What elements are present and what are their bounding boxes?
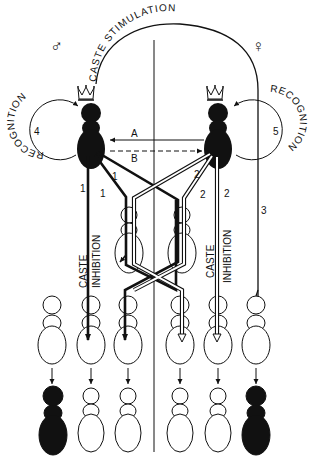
- outcome-male-reproductive: [39, 386, 67, 455]
- queen-crown-icon: [206, 85, 224, 100]
- pathway-number-2a: 2: [194, 169, 200, 180]
- arrow-a-label: A: [131, 128, 138, 139]
- right-loop-number: 5: [273, 126, 279, 137]
- nymph-3: [114, 296, 142, 364]
- caste-stimulation-label: CASTE STIMULATION: [87, 2, 177, 82]
- king-crown-icon: [77, 85, 95, 100]
- termite-caste-regulation-diagram: ♂ ♀ CASTE STIMULATION RECOGNITION 4 RECO…: [0, 0, 313, 469]
- left-inhibition-word: INHIBITION: [91, 235, 102, 288]
- pathway-number-1a: 1: [80, 183, 86, 194]
- male-symbol: ♂: [50, 37, 63, 56]
- right-inhibition-word: INHIBITION: [222, 230, 233, 283]
- outcome-nymph-2: [78, 388, 104, 452]
- outcome-female-reproductive: [242, 386, 270, 455]
- nymph-6: [242, 296, 270, 364]
- pathway-number-1c: 1: [112, 171, 118, 182]
- outcome-nymph-3: [115, 388, 141, 452]
- outcome-nymph-4: [167, 388, 193, 452]
- pathway-number-3: 3: [261, 205, 267, 216]
- female-symbol: ♀: [252, 37, 265, 56]
- arrow-b-label: B: [131, 153, 138, 164]
- left-loop-number: 4: [34, 126, 40, 137]
- pathway-number-2b: 2: [200, 189, 206, 200]
- pathway-number-2c: 2: [224, 188, 230, 199]
- nymph-2: [77, 296, 105, 364]
- right-recognition-label: RECOGNITION: [270, 83, 309, 154]
- nymph-1: [38, 296, 66, 364]
- king-reproductive: [77, 103, 105, 169]
- left-inhibition-caste: CASTE: [78, 254, 89, 288]
- outcome-nymph-5: [205, 388, 231, 452]
- pathway-number-1b: 1: [100, 188, 106, 199]
- left-developing-nymph: [115, 207, 143, 273]
- right-inhibition-caste: CASTE: [205, 244, 216, 278]
